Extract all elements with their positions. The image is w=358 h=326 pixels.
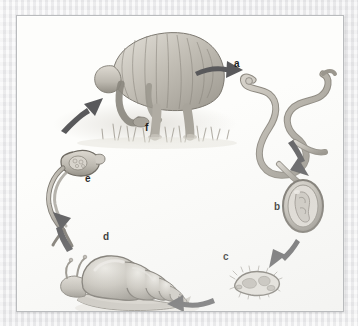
stage-b-egg-art — [283, 180, 323, 232]
arrow-b-to-c-shape — [269, 239, 300, 268]
stage-label-e: e — [85, 174, 91, 184]
life-cycle-illustration — [17, 16, 343, 311]
stage-label-c: c — [223, 252, 229, 262]
arrow-d-to-e-shape — [53, 212, 73, 252]
stage-label-a: a — [234, 59, 240, 69]
stage-label-d: d — [103, 232, 109, 242]
figure-frame: f a b c d e — [16, 15, 344, 312]
stage-label-f: f — [145, 123, 148, 133]
stage-c-miracidium-art — [230, 266, 282, 299]
figure-canvas: f a b c d e — [17, 16, 343, 311]
stage-a-adult-worm-art — [243, 71, 335, 184]
stage-label-b: b — [274, 202, 280, 212]
